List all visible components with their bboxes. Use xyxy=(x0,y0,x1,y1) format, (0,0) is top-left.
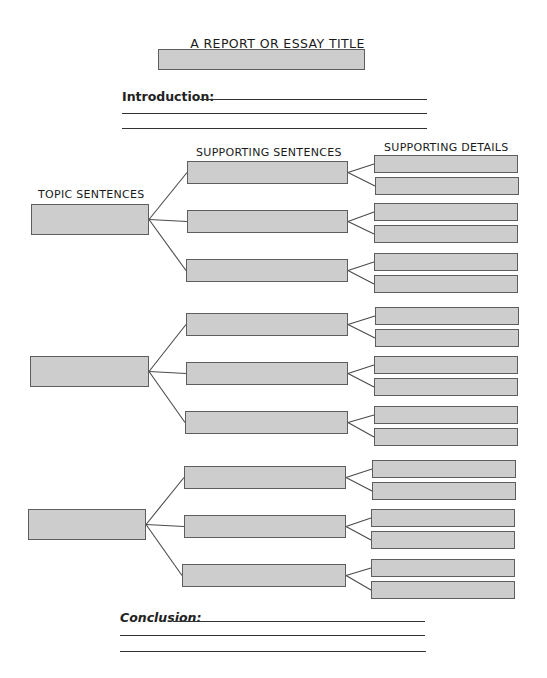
supporting-sentence-box[interactable] xyxy=(185,411,348,434)
supporting-sentence-box[interactable] xyxy=(186,362,348,385)
topic-sentence-box[interactable] xyxy=(30,356,149,387)
supporting-detail-box[interactable] xyxy=(374,155,518,173)
supporting-detail-box[interactable] xyxy=(374,428,518,446)
supporting-detail-box[interactable] xyxy=(374,225,518,243)
supporting-detail-box[interactable] xyxy=(371,559,515,577)
supporting-sentence-box[interactable] xyxy=(187,161,348,184)
topic-sentence-box[interactable] xyxy=(28,509,146,540)
conclusion-label: Conclusion: xyxy=(120,610,201,625)
supporting-detail-box[interactable] xyxy=(371,531,515,549)
introduction-label: Introduction: xyxy=(122,89,214,104)
supporting-detail-box[interactable] xyxy=(372,482,516,500)
supporting-detail-box[interactable] xyxy=(375,177,519,195)
supporting-detail-box[interactable] xyxy=(374,406,518,424)
supporting-sentence-box[interactable] xyxy=(186,259,348,282)
supporting-detail-box[interactable] xyxy=(374,275,518,293)
supporting-detail-box[interactable] xyxy=(375,307,519,325)
introduction-writing-line-2[interactable] xyxy=(122,113,427,114)
supporting-detail-box[interactable] xyxy=(374,203,518,221)
supporting-details-heading: SUPPORTING DETAILS xyxy=(384,141,509,154)
supporting-sentence-box[interactable] xyxy=(184,466,346,489)
supporting-detail-box[interactable] xyxy=(375,329,519,347)
supporting-detail-box[interactable] xyxy=(374,253,518,271)
topic-sentence-box[interactable] xyxy=(31,204,149,235)
supporting-detail-box[interactable] xyxy=(372,460,516,478)
supporting-detail-box[interactable] xyxy=(374,378,518,396)
supporting-sentence-box[interactable] xyxy=(184,515,346,538)
topic-sentences-heading: TOPIC SENTENCES xyxy=(38,188,145,201)
conclusion-writing-line-3[interactable] xyxy=(120,651,426,652)
supporting-detail-box[interactable] xyxy=(371,509,515,527)
supporting-sentence-box[interactable] xyxy=(182,564,346,587)
introduction-writing-line-1[interactable] xyxy=(200,99,427,100)
supporting-detail-box[interactable] xyxy=(371,581,515,599)
conclusion-writing-line-2[interactable] xyxy=(120,635,425,636)
conclusion-writing-line-1[interactable] xyxy=(173,621,425,622)
supporting-sentence-box[interactable] xyxy=(187,210,348,233)
supporting-sentences-heading: SUPPORTING SENTENCES xyxy=(196,146,342,159)
supporting-sentence-box[interactable] xyxy=(186,313,348,336)
introduction-writing-line-3[interactable] xyxy=(122,128,427,129)
title-input-box[interactable] xyxy=(158,49,365,70)
supporting-detail-box[interactable] xyxy=(374,356,518,374)
